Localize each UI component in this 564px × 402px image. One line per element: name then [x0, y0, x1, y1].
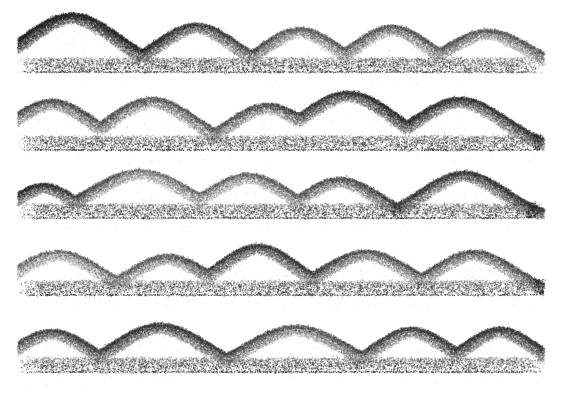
artwork-canvas	[0, 0, 564, 402]
stipple-drawing	[0, 0, 564, 402]
